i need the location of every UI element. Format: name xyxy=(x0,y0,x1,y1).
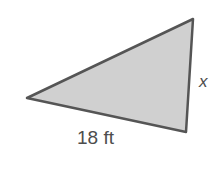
side-label-base: 18 ft xyxy=(77,127,115,148)
triangle-diagram: x 18 ft xyxy=(0,0,216,187)
side-label-x: x xyxy=(198,72,208,91)
triangle-shape xyxy=(27,19,193,132)
